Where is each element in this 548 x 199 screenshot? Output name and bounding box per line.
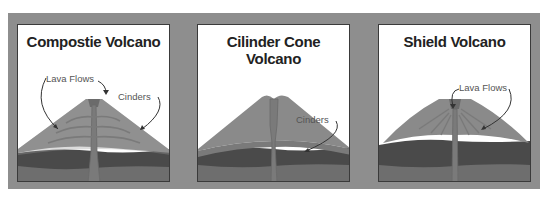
label-cinders: Cinders bbox=[118, 91, 151, 102]
panel-shield-volcano: Shield Volcano Lava Flows bbox=[378, 24, 531, 182]
cinder-cone-volcano-illustration: Cinders bbox=[198, 25, 350, 182]
panel-composite-volcano: Compostie Volcano Lava Flows Cinders bbox=[17, 24, 170, 182]
label-lava-flows: Lava Flows bbox=[459, 82, 507, 93]
composite-volcano-illustration: Lava Flows Cinders bbox=[18, 25, 170, 182]
label-cinders: Cinders bbox=[296, 114, 329, 125]
label-lava-flows: Lava Flows bbox=[46, 73, 94, 84]
shield-volcano-illustration: Lava Flows bbox=[379, 25, 531, 182]
panel-cinder-cone-volcano: Cilinder Cone Volcano Cinders bbox=[197, 24, 350, 182]
